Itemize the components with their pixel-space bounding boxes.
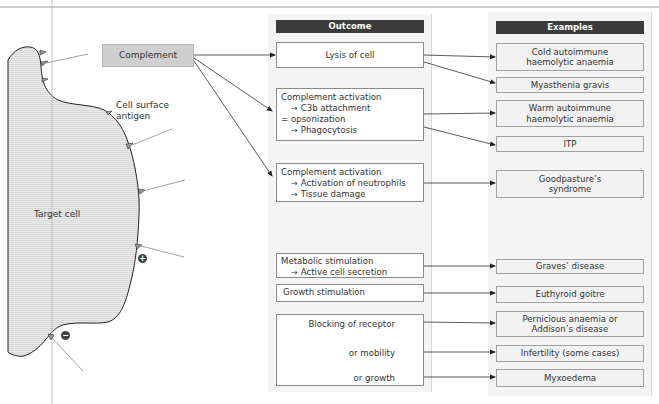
example-myasthenia-gravis: Myasthenia gravis [496,77,644,93]
cell-surface-antigen-label: Cell surface antigen [116,100,169,122]
minus-icon: − [61,331,70,340]
arrow-icon: → [291,126,298,135]
arrow-icon: → [291,268,298,277]
plus-icon: + [138,254,147,263]
target-cell-shape [8,47,139,356]
arrow-icon: → [291,190,298,199]
outcome-blocking: Blocking of receptor or mobility or grow… [276,314,424,386]
example-warm-aiha: Warm autoimmune haemolytic anaemia [496,100,644,127]
example-goodpasture: Goodpasture’s syndrome [496,170,644,198]
outcome-lysis: Lysis of cell [276,42,424,68]
arrow-icon: → [291,104,298,113]
outcome-growth: Growth stimulation [276,284,424,302]
complement-box: Complement [102,44,194,67]
example-pernicious-addison: Pernicious anaemia or Addison’s disease [496,311,644,337]
example-itp: ITP [496,136,644,152]
example-euthyroid-goitre: Euthyroid goitre [496,286,644,303]
examples-header: Examples [496,21,644,34]
outcome-opsonization: Complement activation →C3b attachment = … [276,88,424,141]
arrow-icon: → [291,179,298,188]
example-myxoedema: Myxoedema [496,369,644,387]
example-cold-aiha: Cold autoimmune haemolytic anaemia [496,43,644,71]
outcome-header: Outcome [276,20,424,33]
target-cell-label: Target cell [34,209,80,220]
outcome-metabolic: Metabolic stimulation →Active cell secre… [276,253,424,278]
outcome-neutrophils: Complement activation →Activation of neu… [276,163,424,202]
example-graves: Graves’ disease [496,259,644,274]
example-infertility: Infertility (some cases) [496,345,644,362]
